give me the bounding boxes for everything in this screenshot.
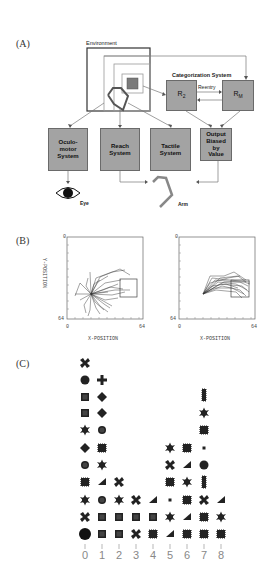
category-label-8: 8 — [215, 549, 227, 561]
plot2-x-axis-label: X-POSITION — [200, 336, 230, 342]
category-label-4: 4 — [147, 549, 159, 561]
eye-icon — [56, 188, 80, 199]
plot2-x-min: 0 — [178, 324, 181, 330]
r2-box: R2 — [166, 80, 197, 111]
plot2-y-max: 64 — [170, 316, 176, 322]
category-label-5: 5 — [164, 549, 176, 561]
rm-label: RM — [233, 90, 242, 100]
category-label-0: 0 — [79, 549, 91, 561]
tactile-system-box: Tactile System — [150, 128, 191, 171]
oculomotor-system-box: Oculo- motor System — [48, 128, 88, 171]
eye-label: Eye — [80, 200, 89, 206]
categorization-system-label: Categorization System — [172, 72, 231, 78]
rm-box: RM — [222, 80, 254, 111]
plot2-y-min: 0 — [175, 234, 178, 240]
r2-label: R2 — [178, 90, 186, 100]
category-label-3: 3 — [130, 549, 142, 561]
category-label-7: 7 — [198, 549, 210, 561]
output-biased-by-value-box: Output Biased by Value — [200, 128, 232, 161]
trajectory-plot-2 — [0, 220, 277, 350]
reach-system-box: Reach System — [100, 128, 140, 171]
arm-label: Arm — [178, 201, 188, 207]
category-label-1: 1 — [96, 549, 108, 561]
category-label-2: 2 — [113, 549, 125, 561]
reentry-label: Reentry — [198, 84, 216, 90]
plot2-x-max: 64 — [251, 324, 257, 330]
category-label-6: 6 — [181, 549, 193, 561]
